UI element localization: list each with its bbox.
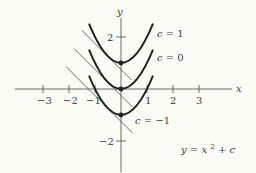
- curve-label-cm1: c = −1: [135, 115, 170, 126]
- vertex-dot-c0: [119, 87, 124, 92]
- y-axis-label: y: [116, 6, 123, 17]
- curve-label-c1: cc = 1 = 1: [157, 28, 184, 39]
- vertex-dot-cm1: [119, 113, 124, 118]
- formula-label: y = x 2 + c: [180, 140, 235, 155]
- vertex-dot-c1: [119, 61, 124, 66]
- curve-label-c0: c = 0: [157, 52, 184, 63]
- x-tick-label: 3: [196, 95, 202, 106]
- x-tick-label: −2: [63, 95, 78, 106]
- x-tick-label: 1: [145, 95, 151, 106]
- y-tick-label: −2: [99, 136, 114, 147]
- y-tick-label: 2: [107, 32, 113, 43]
- x-tick-label: −3: [37, 95, 52, 106]
- parabola-family-diagram: −3 −2 −1 1 2 3 2 −2 x y cc = 1 = 1 c = 0…: [0, 0, 256, 173]
- x-axis-label: x: [236, 83, 242, 94]
- x-tick-label: 2: [170, 95, 176, 106]
